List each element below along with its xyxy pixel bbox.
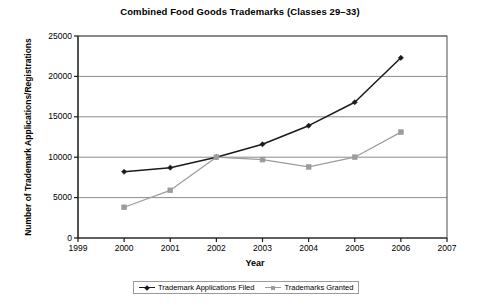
data-point-marker	[260, 157, 265, 162]
data-point-marker	[214, 155, 219, 160]
y-tick-label: 15000	[28, 112, 72, 121]
y-tick-label: 0	[28, 234, 72, 243]
data-point-marker	[306, 165, 311, 170]
y-tick-label: 20000	[28, 72, 72, 81]
x-tick-label: 2000	[101, 244, 147, 253]
data-point-marker	[122, 169, 127, 174]
x-tick-label: 2003	[240, 244, 286, 253]
legend-item-trademarks-granted: Trademarks Granted	[265, 284, 353, 292]
x-tick-label: 2001	[147, 244, 193, 253]
data-point-marker	[168, 165, 173, 170]
y-tick-label: 25000	[28, 32, 72, 41]
x-tick-label: 2004	[286, 244, 332, 253]
plot-area	[0, 0, 480, 307]
x-tick-label: 2006	[378, 244, 424, 253]
x-tick-label: 2005	[332, 244, 378, 253]
data-point-marker	[168, 188, 173, 193]
legend-label-applications-filed: Trademark Applications Filed	[158, 284, 254, 292]
data-point-marker	[398, 130, 403, 135]
x-tick-label: 1999	[55, 244, 101, 253]
data-point-marker	[306, 123, 311, 128]
legend-marker-square-icon	[265, 284, 281, 292]
chart-container: Combined Food Goods Trademarks (Classes …	[0, 0, 480, 307]
y-tick-label: 10000	[28, 153, 72, 162]
legend-item-applications-filed: Trademark Applications Filed	[139, 284, 254, 292]
y-tick-label: 5000	[28, 193, 72, 202]
legend-label-trademarks-granted: Trademarks Granted	[284, 284, 353, 292]
data-point-marker	[260, 142, 265, 147]
x-tick-label: 2002	[193, 244, 239, 253]
data-point-marker	[352, 155, 357, 160]
chart-legend: Trademark Applications Filed Trademarks …	[133, 281, 359, 294]
legend-marker-diamond-icon	[139, 284, 155, 292]
x-tick-label: 2007	[424, 244, 470, 253]
data-point-marker	[122, 205, 127, 210]
